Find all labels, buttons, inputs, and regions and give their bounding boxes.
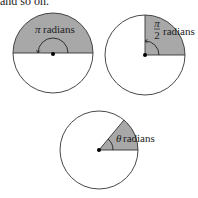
label-radians: radians xyxy=(43,23,75,35)
center-point-icon xyxy=(97,148,101,152)
diagram-theta-radians: θ radians xyxy=(60,111,155,189)
radian-diagrams: π radians π 2 radians θ radians xyxy=(0,0,198,198)
center-point-icon xyxy=(51,52,55,56)
label-radians: radians xyxy=(163,25,195,37)
diagram-half-pi-radians: π 2 radians xyxy=(105,15,195,95)
label-numerator: π xyxy=(154,17,160,29)
label-radians: radians xyxy=(123,132,155,144)
center-point-icon xyxy=(143,53,147,57)
label-denominator: 2 xyxy=(154,29,160,41)
label-theta: θ xyxy=(116,132,122,144)
label-pi: π xyxy=(35,23,41,35)
diagram-pi-radians: π radians xyxy=(13,13,93,93)
